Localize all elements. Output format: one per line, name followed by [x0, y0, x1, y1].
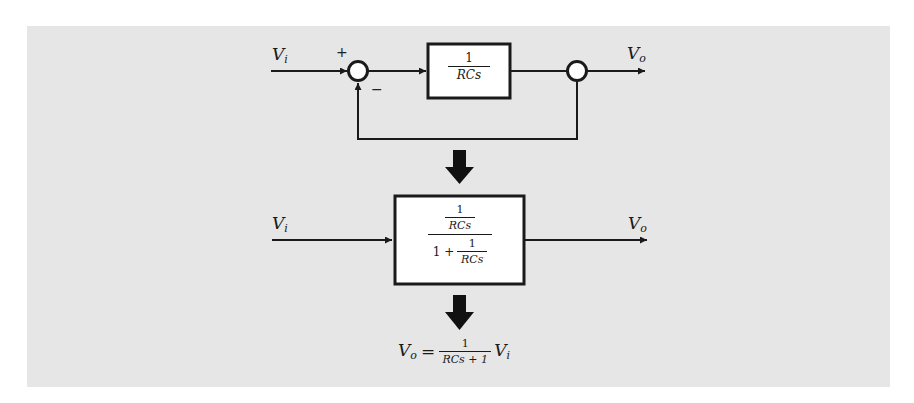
- main-fraction-bar: [428, 234, 492, 235]
- result-fraction-bar: [439, 351, 491, 352]
- output-subscript: o: [639, 52, 646, 65]
- result-denominator: RCs + 1: [442, 354, 488, 365]
- fraction-bar: [448, 66, 490, 67]
- reduction-arrow-1: [445, 150, 474, 184]
- rhs-subscript: i: [506, 349, 510, 362]
- top-output-label: Vo: [627, 45, 646, 64]
- diagram-canvas: Vi + − 1 RCs Vo Vi 1 RCs 1 + 1 RCs Vo: [0, 0, 914, 403]
- numerator-den: RCs: [449, 220, 471, 231]
- output-var: V: [628, 213, 640, 233]
- reduced-output-label: Vo: [628, 215, 647, 234]
- result-numerator: 1: [462, 338, 469, 349]
- inner-fraction-bar: [457, 251, 487, 252]
- reduced-transfer-function: 1 RCs 1 + 1 RCs: [427, 204, 493, 265]
- minus-sign: −: [371, 82, 383, 96]
- output-subscript: o: [640, 222, 647, 235]
- reduced-numerator-frac: 1 RCs: [445, 204, 475, 231]
- tf-denominator: RCs: [454, 69, 484, 81]
- rhs-var: V: [494, 340, 506, 360]
- result-lhs: Vo: [398, 342, 417, 361]
- input-var: V: [272, 44, 284, 64]
- reduction-arrow-2: [445, 295, 474, 330]
- equals-sign: =: [421, 343, 435, 360]
- reduced-input-label: Vi: [272, 215, 288, 234]
- lhs-var: V: [398, 340, 410, 360]
- denominator-prefix: 1 +: [433, 246, 455, 258]
- denominator-frac-num: 1: [469, 238, 476, 249]
- reduced-denominator: 1 + 1 RCs: [433, 238, 488, 265]
- input-subscript: i: [284, 53, 288, 66]
- plus-sign: +: [336, 45, 348, 59]
- forward-block-transfer-function: 1 RCs: [448, 52, 490, 81]
- result-rhs: Vi: [494, 342, 510, 361]
- takeoff-point: [568, 62, 587, 81]
- output-var: V: [627, 43, 639, 63]
- summing-junction: [349, 62, 368, 81]
- input-var: V: [272, 213, 284, 233]
- top-input-label: Vi: [272, 46, 288, 65]
- result-equation: Vo = 1 RCs + 1 Vi: [398, 338, 510, 365]
- denominator-frac-den: RCs: [461, 254, 483, 265]
- result-fraction: 1 RCs + 1: [439, 338, 491, 365]
- tf-numerator: 1: [462, 52, 476, 64]
- inner-fraction-bar: [445, 217, 475, 218]
- input-subscript: i: [284, 222, 288, 235]
- denominator-frac: 1 RCs: [457, 238, 487, 265]
- numerator-num: 1: [457, 204, 464, 215]
- lhs-subscript: o: [410, 349, 417, 362]
